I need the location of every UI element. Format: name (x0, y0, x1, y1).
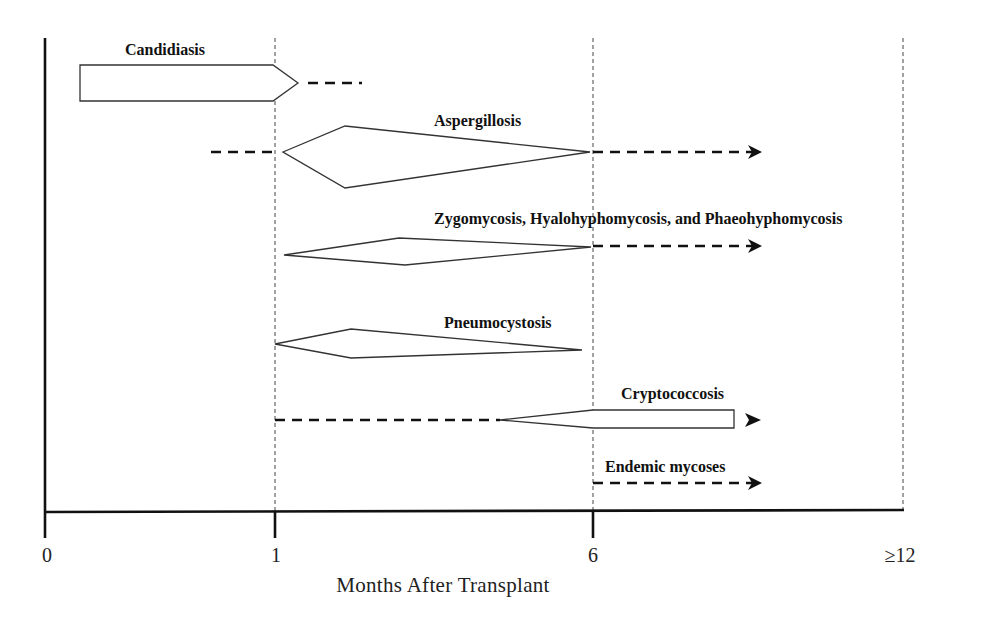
aspergillosis-row: Aspergillosis (211, 112, 752, 188)
guide-lines (275, 38, 903, 512)
cryptococcosis-label: Cryptococcosis (621, 385, 724, 403)
pneumocystosis-label: Pneumocystosis (444, 314, 552, 332)
zygomycosis-label: Zygomycosis, Hyalohyphomycosis, and Phae… (434, 210, 843, 228)
aspergillosis-label: Aspergillosis (434, 112, 521, 130)
cryptococcosis-wedge-bar (500, 410, 734, 428)
cryptococcosis-row: Cryptococcosis (275, 385, 761, 428)
tick-label-0: 0 (42, 544, 52, 566)
tick-label-6: 6 (588, 544, 598, 566)
infection-timeline-diagram: 0 1 6 ≥12 Months After Transplant Candid… (0, 0, 997, 626)
endemic-mycoses-row: Endemic mycoses (593, 458, 752, 483)
tick-label-1: 1 (271, 544, 281, 566)
cryptococcosis-arrow-icon (745, 413, 761, 427)
pneumocystosis-row: Pneumocystosis (275, 314, 582, 358)
zygomycosis-row: Zygomycosis, Hyalohyphomycosis, and Phae… (284, 210, 843, 265)
tick-labels: 0 1 6 ≥12 (42, 544, 915, 566)
aspergillosis-diamond (283, 126, 590, 188)
candidiasis-bar (80, 65, 298, 101)
zygomycosis-diamond (284, 238, 591, 265)
tick-label-12: ≥12 (885, 544, 916, 566)
candidiasis-row: Candidiasis (80, 41, 362, 101)
x-axis-title: Months After Transplant (336, 573, 549, 597)
candidiasis-label: Candidiasis (125, 41, 205, 58)
pneumocystosis-diamond (275, 329, 582, 358)
x-axis-line (45, 510, 904, 512)
endemic-mycoses-label: Endemic mycoses (605, 458, 725, 476)
